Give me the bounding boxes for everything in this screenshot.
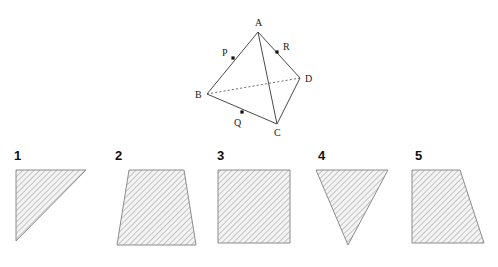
point-marker-P: [231, 56, 234, 59]
tetrahedron-marked-points: [231, 50, 278, 113]
vertex-label-A: A: [255, 17, 263, 28]
edge-BD: [207, 78, 300, 94]
answer-shape-row: [16, 170, 484, 245]
shape-number-2: 2: [115, 148, 122, 163]
point-marker-R: [275, 50, 278, 53]
point-marker-Q: [240, 110, 243, 113]
edge-AD: [258, 32, 300, 78]
vertex-label-D: D: [305, 73, 312, 84]
point-label-Q: Q: [234, 117, 242, 128]
edge-AC: [258, 32, 277, 124]
shape-trapezoid-narrow-top[interactable]: [117, 170, 196, 245]
shape-right-triangle[interactable]: [16, 170, 86, 241]
answer-shape-numbers: 12345: [14, 148, 422, 163]
shape-inverted-triangle[interactable]: [316, 170, 388, 245]
shape-square[interactable]: [218, 170, 290, 243]
tetrahedron-vertex-labels: ABCDPQR: [195, 17, 312, 138]
shape-number-1: 1: [14, 148, 21, 163]
point-label-P: P: [222, 47, 228, 58]
shape-number-5: 5: [415, 148, 422, 163]
diagram-canvas: ABCDPQR 12345: [0, 0, 498, 267]
vertex-label-C: C: [274, 127, 281, 138]
edge-CD: [277, 78, 300, 124]
vertex-label-B: B: [195, 89, 202, 100]
edge-BC: [207, 94, 277, 124]
shape-number-4: 4: [318, 148, 326, 163]
point-label-R: R: [283, 41, 290, 52]
shape-right-trapezoid[interactable]: [412, 170, 484, 243]
tetrahedron-hidden-edges: [207, 78, 300, 94]
edge-AB: [207, 32, 258, 94]
geometry-figure: ABCDPQR 12345: [0, 0, 498, 267]
shape-number-3: 3: [217, 148, 224, 163]
